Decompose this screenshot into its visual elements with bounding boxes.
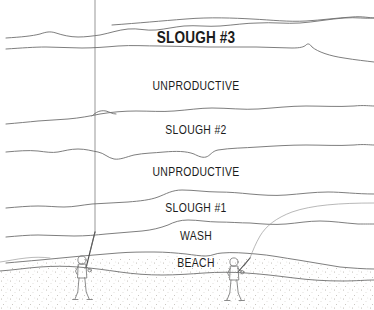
contour-line-slough2-inner <box>6 145 374 160</box>
diagram-canvas <box>0 0 374 310</box>
contour-line-bar2-top <box>6 44 374 62</box>
contour-line-slough2-outer <box>6 106 374 124</box>
contour-line-slough3-inner <box>6 18 374 38</box>
contour-line-wash-outer <box>6 220 374 237</box>
beach-structure-diagram: SLOUGH #3 UNPRODUCTIVE SLOUGH #2 UNPRODU… <box>0 0 374 310</box>
contour-line-slough1-outer <box>6 190 374 208</box>
fishing-line-right <box>250 203 374 258</box>
